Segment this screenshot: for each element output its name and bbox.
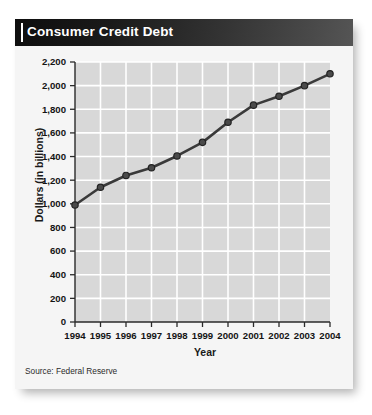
x-axis-tick-label: 1995	[90, 330, 112, 341]
y-axis-tick-label: 200	[50, 293, 66, 304]
data-point-marker	[123, 172, 129, 178]
data-point-marker	[97, 184, 103, 190]
y-axis-ticks	[70, 62, 75, 322]
y-axis-tick-label: 2,000	[42, 80, 66, 91]
title-accent-bar	[21, 23, 23, 42]
chart-card: Consumer Credit Debt 02004006008001,0001…	[15, 19, 353, 389]
y-axis-tick-label: 800	[50, 222, 66, 233]
y-axis-tick-label: 2,200	[42, 56, 66, 67]
data-point-marker	[225, 119, 231, 125]
x-axis-ticks	[75, 322, 330, 327]
x-axis-tick-label: 2000	[217, 330, 238, 341]
y-axis-tick-label: 1,200	[42, 175, 66, 186]
x-axis-tick-label: 1999	[192, 330, 213, 341]
x-axis-tick-labels: 1994199519961997199819992000200120022003…	[64, 330, 341, 341]
page-title: Consumer Credit Debt	[27, 24, 173, 39]
data-point-marker	[72, 202, 78, 208]
x-axis-tick-label: 2002	[268, 330, 289, 341]
data-point-marker	[301, 82, 307, 88]
x-axis-title: Year	[75, 346, 335, 358]
y-axis-tick-label: 400	[50, 269, 66, 280]
x-axis-tick-label: 1997	[141, 330, 162, 341]
y-axis-tick-label: 1,800	[42, 104, 66, 115]
data-point-marker	[199, 139, 205, 145]
y-axis-tick-label: 1,600	[42, 127, 66, 138]
x-axis-tick-label: 1998	[166, 330, 188, 341]
source-note: Source: Federal Reserve	[25, 366, 117, 376]
data-point-marker	[327, 71, 333, 77]
data-point-marker	[276, 93, 282, 99]
y-axis-tick-label: 1,400	[42, 151, 66, 162]
x-axis-tick-label: 1994	[64, 330, 86, 341]
chart-figure: Consumer Credit Debt 02004006008001,0001…	[0, 0, 372, 415]
data-point-marker	[174, 153, 180, 159]
chart-body: 02004006008001,0001,2001,4001,6001,8002,…	[15, 46, 353, 389]
line-chart-plot: 02004006008001,0001,2001,4001,6001,8002,…	[15, 46, 353, 389]
y-axis-tick-label: 1,000	[42, 198, 66, 209]
chart-title-bar: Consumer Credit Debt	[15, 19, 353, 46]
y-axis-tick-labels: 02004006008001,0001,2001,4001,6001,8002,…	[42, 56, 66, 327]
x-axis-tick-label: 2004	[319, 330, 341, 341]
y-axis-tick-label: 600	[50, 245, 66, 256]
x-axis-tick-label: 2003	[294, 330, 315, 341]
x-axis-tick-label: 1996	[115, 330, 136, 341]
data-point-marker	[250, 102, 256, 108]
data-point-marker	[148, 165, 154, 171]
x-axis-tick-label: 2001	[243, 330, 265, 341]
y-axis-tick-label: 0	[61, 316, 66, 327]
y-axis-title: Dollars (in billions)	[33, 110, 45, 240]
